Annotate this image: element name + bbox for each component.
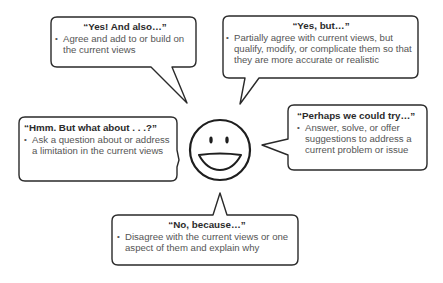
bullet-icon: • — [24, 134, 32, 156]
bubble-description: Partially agree with current views, but … — [234, 32, 416, 65]
speech-bubble-yes-but: “Yes, but…” • Partially agree with curre… — [226, 20, 416, 65]
bubble-description: Answer, solve, or offer suggestions to a… — [305, 122, 425, 155]
smiley-face-icon — [190, 120, 250, 180]
bubble-description: Disagree with the current views or one a… — [125, 231, 297, 253]
bubble-title: “Hmm. But what about . . .?” — [24, 122, 174, 133]
speech-bubble-perhaps-we-could-try: “Perhaps we could try…” • Answer, solve,… — [297, 110, 425, 155]
bubble-title: “Yes! And also…” — [55, 21, 195, 32]
speech-bubble-no-because: “No, because…” • Disagree with the curre… — [117, 219, 297, 253]
bullet-icon: • — [55, 33, 63, 55]
speech-bubble-hmm-but-what-about: “Hmm. But what about . . .?” • Ask a que… — [24, 122, 174, 156]
bullet-icon: • — [117, 231, 125, 253]
bullet-icon: • — [297, 122, 305, 155]
speech-bubble-yes-and-also: “Yes! And also…” • Agree and add to or b… — [55, 21, 195, 55]
bubble-title: “Perhaps we could try…” — [297, 110, 425, 121]
bubble-title: “Yes, but…” — [226, 20, 416, 31]
bubble-description: Agree and add to or build on the current… — [63, 33, 195, 55]
bubble-description: Ask a question about or address a limita… — [32, 134, 174, 156]
bubble-title: “No, because…” — [117, 219, 297, 230]
bullet-icon: • — [226, 32, 234, 65]
